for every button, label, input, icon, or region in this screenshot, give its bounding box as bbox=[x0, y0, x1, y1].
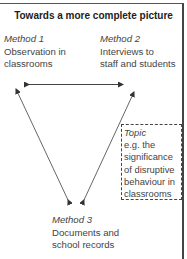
arrow-method3-method2 bbox=[84, 92, 134, 200]
arrow-method3-method1 bbox=[16, 89, 68, 200]
arrows-layer bbox=[0, 0, 187, 259]
